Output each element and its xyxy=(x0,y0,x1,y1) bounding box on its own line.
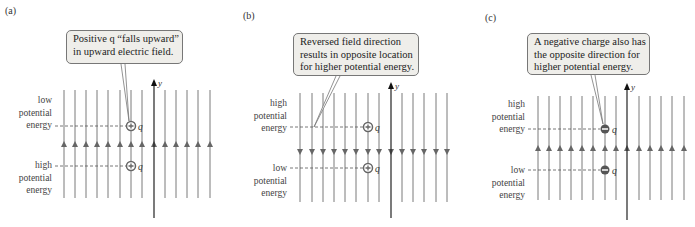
field-diagram-b: y q q xyxy=(230,0,460,227)
panel-b: (b) Reversed field direction results in … xyxy=(230,0,460,227)
callout-tail-a xyxy=(121,64,129,121)
field-arrows-down-icon xyxy=(297,149,450,155)
charge-label-a-lower: q xyxy=(138,162,143,172)
y-axis-label-c: y xyxy=(630,82,635,92)
y-axis-a: y xyxy=(151,78,162,218)
panel-a: (a) Positive q “falls upward” in upward … xyxy=(0,0,230,227)
field-arrows-up-icon xyxy=(535,145,687,151)
charge-label-c-lower: q xyxy=(612,166,617,176)
field-arrows-up-icon xyxy=(61,141,213,147)
charge-label-b-lower: q xyxy=(375,164,380,174)
y-axis-label-b: y xyxy=(394,81,399,91)
field-diagram-a: y q q xyxy=(0,0,230,227)
callout-tail-b xyxy=(314,76,340,127)
panel-c: (c) A negative charge also has the oppos… xyxy=(460,0,695,227)
charge-label-b-upper: q xyxy=(375,123,380,133)
dashed-lines-b xyxy=(290,127,363,168)
charge-label-a-upper: q xyxy=(138,122,143,132)
y-axis-label-a: y xyxy=(157,78,162,88)
field-diagram-c: y q q xyxy=(460,0,695,227)
charge-label-c-upper: q xyxy=(612,125,617,135)
